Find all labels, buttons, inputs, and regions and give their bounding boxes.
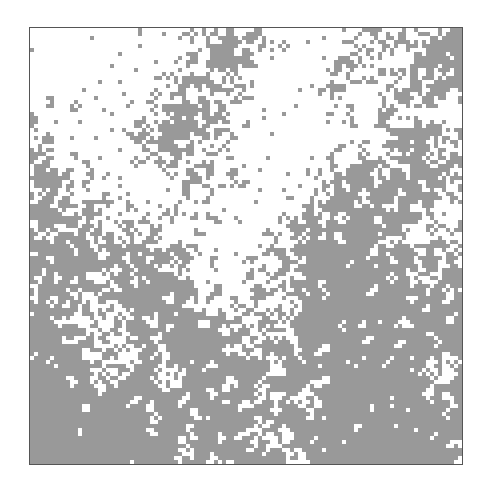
binary-grid-canvas <box>30 28 462 464</box>
grid-frame <box>29 27 463 465</box>
